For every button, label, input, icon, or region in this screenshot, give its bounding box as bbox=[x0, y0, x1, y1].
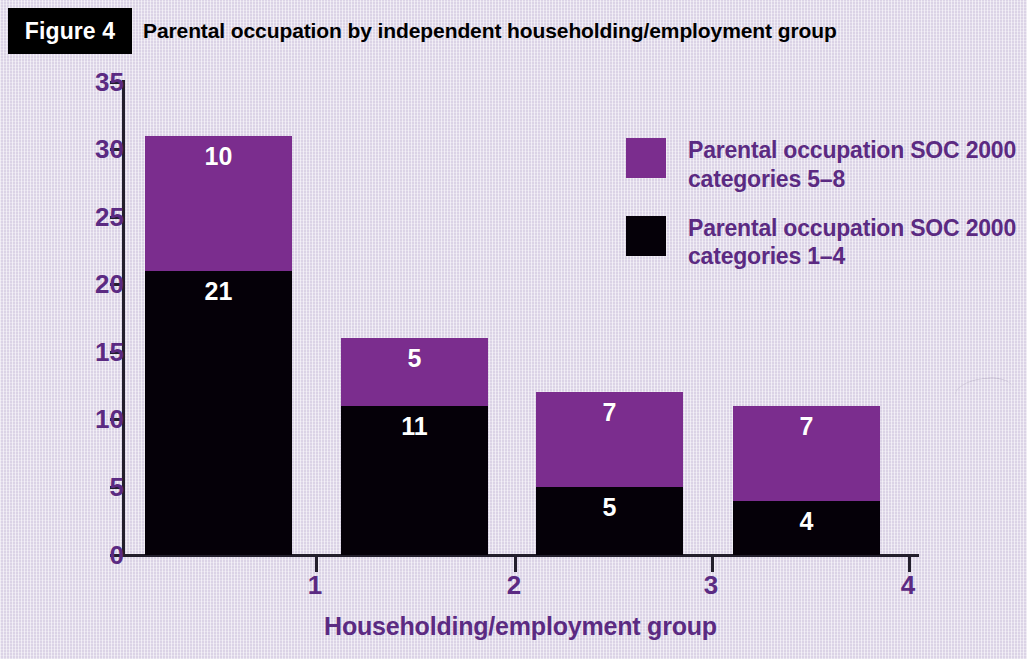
x-axis-title: Householding/employment group bbox=[122, 612, 919, 641]
legend-swatch-black-icon bbox=[626, 216, 666, 256]
bar-group-1[interactable]: 10 21 bbox=[145, 136, 292, 555]
bar-value-label: 7 bbox=[800, 414, 814, 439]
legend-item-categories-1-4[interactable]: Parental occupation SOC 2000 categories … bbox=[626, 214, 1016, 272]
x-tick-label-3: 3 bbox=[681, 570, 741, 601]
legend-label: Parental occupation SOC 2000 categories … bbox=[688, 214, 1016, 272]
bar-value-label: 5 bbox=[603, 495, 617, 520]
y-tick-label: 0 bbox=[52, 540, 124, 571]
legend-swatch-purple-icon bbox=[626, 138, 666, 178]
x-tick-label-4: 4 bbox=[878, 570, 938, 601]
x-tick-label-1: 1 bbox=[285, 570, 345, 601]
legend-label: Parental occupation SOC 2000 categories … bbox=[688, 136, 1016, 194]
bar-group-2[interactable]: 5 11 bbox=[341, 338, 488, 555]
chart-legend: Parental occupation SOC 2000 categories … bbox=[626, 136, 1016, 291]
y-tick-label: 15 bbox=[52, 337, 124, 368]
bar-segment-upper[interactable]: 7 bbox=[733, 406, 880, 501]
bar-value-label: 4 bbox=[800, 509, 814, 534]
bar-value-label: 11 bbox=[401, 414, 427, 439]
bar-segment-upper[interactable]: 10 bbox=[145, 136, 292, 271]
bar-segment-upper[interactable]: 7 bbox=[536, 392, 683, 487]
x-tick-label-2: 2 bbox=[484, 570, 544, 601]
bar-value-label: 7 bbox=[603, 400, 617, 425]
bar-group-4[interactable]: 7 4 bbox=[733, 406, 880, 555]
bar-segment-lower[interactable]: 5 bbox=[536, 487, 683, 555]
bar-value-label: 10 bbox=[205, 144, 233, 169]
legend-item-categories-5-8[interactable]: Parental occupation SOC 2000 categories … bbox=[626, 136, 1016, 194]
y-tick-label: 20 bbox=[52, 269, 124, 300]
figure-page: Figure 4 Parental occupation by independ… bbox=[0, 0, 1027, 659]
bar-segment-upper[interactable]: 5 bbox=[341, 338, 488, 406]
bar-segment-lower[interactable]: 4 bbox=[733, 501, 880, 555]
chart-plot-area: 35 30 25 20 15 10 5 0 bbox=[0, 0, 1027, 659]
bar-value-label: 5 bbox=[408, 346, 422, 371]
bar-value-label: 21 bbox=[205, 279, 233, 304]
y-tick-label: 30 bbox=[52, 134, 124, 165]
y-tick-label: 10 bbox=[52, 404, 124, 435]
bar-group-3[interactable]: 7 5 bbox=[536, 392, 683, 555]
y-tick-label: 5 bbox=[52, 472, 124, 503]
y-tick-label: 25 bbox=[52, 202, 124, 233]
bar-segment-lower[interactable]: 21 bbox=[145, 271, 292, 555]
bar-segment-lower[interactable]: 11 bbox=[341, 406, 488, 555]
y-tick-label: 35 bbox=[52, 67, 124, 98]
